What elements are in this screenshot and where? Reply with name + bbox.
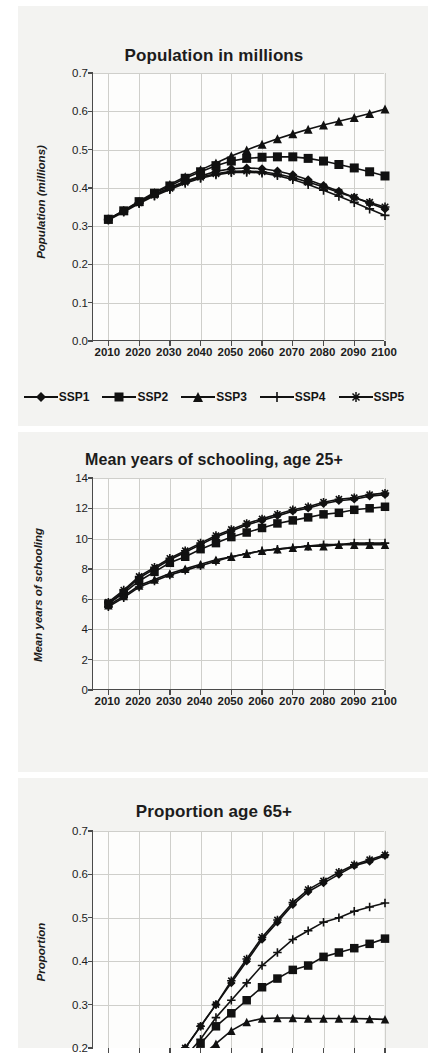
y-tick-label: 0.6 [52, 868, 88, 880]
x-tick-label: 2080 [310, 346, 336, 358]
legend-item-ssp5: SSP5 [339, 390, 405, 404]
x-tick-mark [323, 1048, 324, 1053]
y-tick-label: 0.2 [52, 258, 88, 270]
x-tick-label: 2070 [279, 346, 305, 358]
x-tick-mark [261, 1048, 262, 1053]
x-tick-label: 2060 [248, 346, 274, 358]
y-tick-label: 10 [52, 533, 88, 545]
series-line-ssp1 [108, 495, 385, 604]
x-tick-label: 2050 [218, 695, 244, 707]
y-tick-label: 0.4 [52, 182, 88, 194]
x-tick-label: 2010 [95, 695, 121, 707]
gridline-horizontal [93, 1048, 384, 1049]
legend-item-ssp4: SSP4 [260, 390, 326, 404]
y-tick-label: 14 [52, 472, 88, 484]
legend-label: SSP1 [59, 390, 90, 404]
x-tick-label: 2070 [279, 695, 305, 707]
x-tick-label: 2060 [248, 695, 274, 707]
y-axis-label-proportion: Proportion [35, 902, 47, 1002]
x-tick-label: 2040 [187, 346, 213, 358]
y-tick-label: 0.6 [52, 105, 88, 117]
legend-label: SSP3 [216, 390, 247, 404]
y-axis-label-schooling: Mean years of schooling [32, 505, 44, 685]
x-tick-label: 2100 [371, 695, 397, 707]
y-tick-label: 12 [52, 502, 88, 514]
legend-label: SSP4 [295, 390, 326, 404]
x-tick-label: 2010 [95, 346, 121, 358]
y-tick-label: 0.5 [52, 912, 88, 924]
y-tick-label: 0.7 [52, 67, 88, 79]
y-tick-label: 0.3 [52, 999, 88, 1011]
x-tick-mark [231, 1048, 232, 1053]
x-tick-label: 2080 [310, 695, 336, 707]
y-tick-label: 0.5 [52, 144, 88, 156]
series-layer-population [93, 73, 385, 341]
x-tick-label: 2090 [340, 695, 366, 707]
x-tick-label: 2020 [125, 346, 151, 358]
x-tick-label: 2040 [187, 695, 213, 707]
x-tick-mark [139, 1048, 140, 1053]
y-tick-labels-schooling: 02468101214 [52, 478, 88, 690]
chart-panel-proportion: Proportion age 65+ Proportion 0.20.30.40… [0, 778, 428, 1048]
y-tick-labels-proportion: 0.20.30.40.50.60.7 [52, 831, 88, 1057]
y-tick-label: 0.4 [52, 955, 88, 967]
gridline-horizontal [93, 341, 384, 342]
x-tick-mark [354, 1048, 355, 1053]
x-tick-mark [384, 1048, 385, 1053]
series-layer-proportion65 [93, 831, 385, 1048]
legend-item-ssp2: SSP2 [102, 390, 168, 404]
plot-area-schooling [92, 478, 384, 690]
gridline-horizontal [93, 690, 384, 691]
chart-panel-population: Population in millions Population (milli… [0, 0, 428, 430]
chart-title-schooling: Mean years of schooling, age 25+ [0, 451, 428, 469]
x-tick-label: 2050 [218, 346, 244, 358]
y-tick-label: 2 [52, 654, 88, 666]
series-line-ssp5 [108, 493, 385, 602]
legend-marker-diamond-icon [24, 390, 58, 404]
y-tick-label: 0.7 [52, 825, 88, 837]
x-tick-label: 2030 [156, 346, 182, 358]
x-tick-mark [200, 1048, 201, 1053]
series-layer-schooling [93, 478, 385, 690]
y-tick-labels-population: 0.00.10.20.30.40.50.60.7 [52, 73, 88, 341]
x-tick-label: 2090 [340, 346, 366, 358]
chart-title-proportion: Proportion age 65+ [0, 802, 428, 822]
legend-marker-asterisk-icon [339, 390, 373, 404]
legend-label: SSP5 [374, 390, 405, 404]
y-tick-label: 6 [52, 593, 88, 605]
chart-title-population: Population in millions [0, 46, 428, 66]
legend-marker-plus-icon [260, 390, 294, 404]
legend-ssp-scenarios: SSP1 SSP2 SSP3 SSP4 SSP5 [0, 387, 428, 407]
plot-area-proportion [92, 831, 384, 1048]
y-tick-label: 4 [52, 623, 88, 635]
y-tick-label: 0.1 [52, 297, 88, 309]
y-tick-label: 0 [52, 684, 88, 696]
x-tick-label: 2100 [371, 346, 397, 358]
legend-item-ssp3: SSP3 [181, 390, 247, 404]
x-tick-label: 2020 [125, 695, 151, 707]
legend-marker-triangle-icon [181, 390, 215, 404]
plot-area-population [92, 73, 384, 341]
legend-marker-square-icon [102, 390, 136, 404]
x-tick-mark [108, 1048, 109, 1053]
x-tick-mark [169, 1048, 170, 1053]
chart-panel-schooling: Mean years of schooling, age 25+ Mean ye… [0, 432, 428, 772]
y-axis-label-population: Population (millions) [35, 117, 47, 287]
legend-label: SSP2 [137, 390, 168, 404]
legend-item-ssp1: SSP1 [24, 390, 90, 404]
x-tick-mark [292, 1048, 293, 1053]
y-tick-label: 0.0 [52, 335, 88, 347]
y-tick-label: 8 [52, 563, 88, 575]
y-tick-label: 0.3 [52, 220, 88, 232]
y-tick-label: 0.2 [52, 1042, 88, 1054]
x-tick-label: 2030 [156, 695, 182, 707]
